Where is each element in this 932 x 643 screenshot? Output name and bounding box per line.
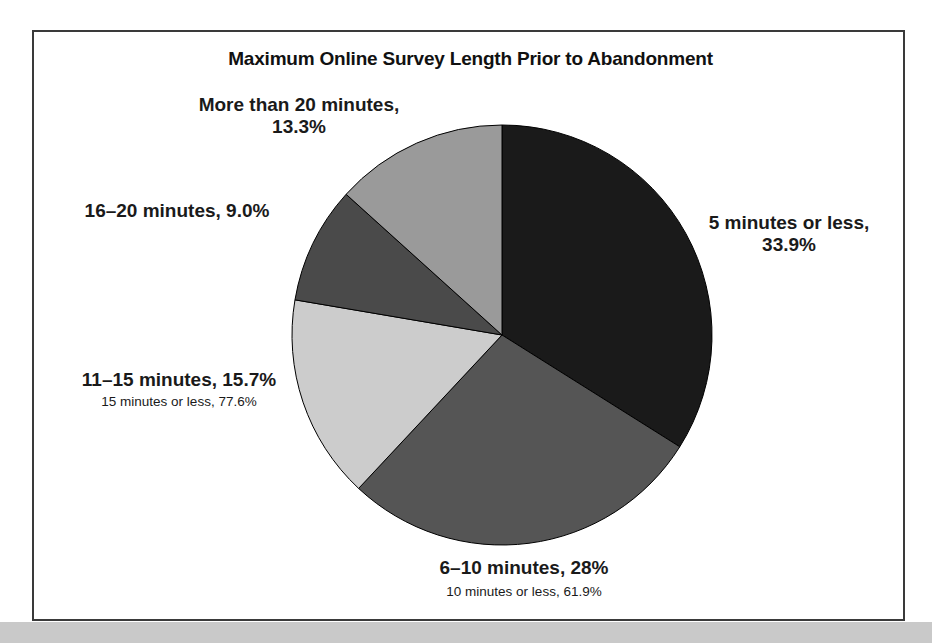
chart-figure-frame: Maximum Online Survey Length Prior to Ab… <box>32 30 905 621</box>
page-bottom-band <box>0 622 932 643</box>
pie-label-5-minutes-or-less: 5 minutes or less, 33.9% <box>674 212 904 257</box>
pie-label-16-20-minutes: 16–20 minutes, 9.0% <box>42 200 312 222</box>
pie-chart-svg <box>34 32 907 619</box>
pie-label-11-15-minutes: 11–15 minutes, 15.7% <box>34 369 324 391</box>
pie-annotation-10-minutes-or-less: 10 minutes or less, 61.9% <box>364 584 684 600</box>
pie-annotation-15-minutes-or-less: 15 minutes or less, 77.6% <box>34 394 324 410</box>
pie-slice-group <box>292 125 712 545</box>
pie-label-more-than-20-minutes: More than 20 minutes, 13.3% <box>174 94 424 139</box>
pie-label-6-10-minutes: 6–10 minutes, 28% <box>364 557 684 579</box>
pie-chart <box>34 32 907 619</box>
